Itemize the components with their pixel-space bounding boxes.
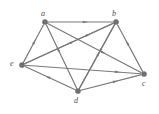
- arrowhead-b-e: [67, 41, 72, 44]
- node-b: [113, 19, 118, 24]
- node-d: [75, 88, 80, 93]
- node-a: [42, 19, 47, 24]
- arrowhead-a-b: [83, 21, 88, 24]
- arrowhead-d-c: [113, 81, 119, 84]
- node-c: [141, 71, 146, 76]
- node-label-a: a: [41, 10, 45, 18]
- edge-a-c: [48, 23, 141, 72]
- node-label-e: e: [10, 60, 14, 68]
- node-e: [19, 62, 24, 67]
- node-label-d: d: [74, 97, 78, 105]
- arrowhead-d-e: [45, 76, 50, 79]
- edge-c-b: [118, 25, 143, 71]
- directed-graph-figure: abecd: [0, 0, 159, 114]
- arrowhead-a-c: [101, 50, 106, 54]
- edge-d-c: [81, 75, 141, 90]
- graph-canvas: [0, 0, 159, 114]
- edge-d-b: [79, 25, 114, 88]
- node-label-c: c: [142, 80, 146, 88]
- arrowhead-e-a: [32, 39, 36, 44]
- node-label-b: b: [112, 10, 116, 18]
- edge-e-c: [25, 65, 141, 74]
- arrowhead-c-b: [126, 40, 130, 45]
- edges-group: [23, 21, 142, 91]
